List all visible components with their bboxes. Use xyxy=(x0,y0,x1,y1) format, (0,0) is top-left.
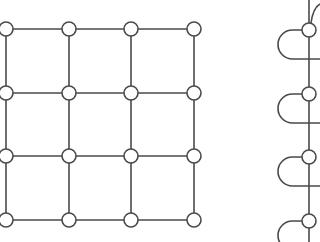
grid-node xyxy=(0,213,13,227)
grid-node xyxy=(124,149,138,163)
chain-node xyxy=(302,23,316,37)
diagram-canvas xyxy=(0,0,320,242)
grid-node xyxy=(0,149,13,163)
grid-graph-edges xyxy=(6,29,194,220)
grid-node xyxy=(124,22,138,36)
grid-node xyxy=(0,86,13,100)
graph-diagram xyxy=(0,0,320,242)
grid-node xyxy=(62,213,76,227)
chain-node xyxy=(302,150,316,164)
grid-node xyxy=(187,149,201,163)
grid-node xyxy=(0,22,13,36)
grid-node xyxy=(124,213,138,227)
grid-node xyxy=(187,86,201,100)
grid-node xyxy=(62,149,76,163)
chain-graph-edges xyxy=(278,0,320,242)
grid-node xyxy=(62,22,76,36)
grid-node xyxy=(187,22,201,36)
grid-node xyxy=(187,213,201,227)
grid-node xyxy=(124,86,138,100)
chain-top-edge xyxy=(311,4,320,23)
chain-node xyxy=(302,214,316,228)
chain-node xyxy=(302,87,316,101)
grid-node xyxy=(62,86,76,100)
grid-graph-nodes xyxy=(0,22,201,227)
